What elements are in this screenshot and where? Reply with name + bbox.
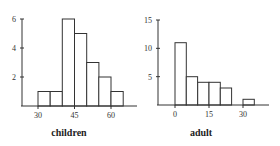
histogram-bar [87,63,99,107]
histogram-figure: 246304560 5101501530 children adult [0,0,280,146]
y-tick-label: 15 [144,16,152,25]
histogram-bar [175,43,186,105]
y-tick-label: 10 [144,44,152,53]
x-tick-label: 15 [205,110,213,119]
x-tick-label: 45 [71,111,79,120]
y-tick-label: 5 [148,73,152,82]
x-tick-label: 30 [34,111,42,120]
histogram-bar [209,82,220,105]
x-tick-label: 30 [239,110,247,119]
children-histogram: 246304560 [12,15,137,120]
x-tick-label: 0 [173,110,177,119]
histogram-bar [243,99,254,105]
x-tick-label: 60 [107,111,115,120]
histogram-bar [220,88,231,105]
histogram-bar [75,34,87,107]
adult-axis-label: adult [190,127,213,138]
histogram-bar [50,92,62,107]
histogram-bar [62,19,74,106]
children-axis-label: children [51,127,87,138]
histogram-bar [186,77,197,105]
histogram-bar [198,82,209,105]
y-tick-label: 6 [12,15,16,24]
y-tick-label: 4 [12,44,16,53]
histogram-bar [38,92,50,107]
histogram-bar [99,77,111,106]
histogram-bar [111,92,123,107]
adult-histogram: 5101501530 [144,16,269,119]
y-tick-label: 2 [12,73,16,82]
